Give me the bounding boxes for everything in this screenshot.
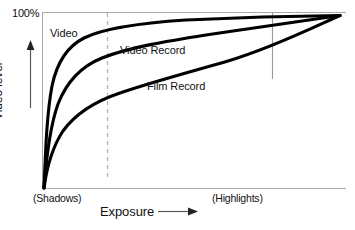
y-axis-title: Video level — [0, 63, 4, 120]
curve-label-video: Video — [50, 28, 77, 39]
x-axis-tick-highlights: (Highlights) — [212, 193, 263, 204]
chart-figure: 100% Video level Exposure (Shadows) (Hig… — [0, 0, 355, 230]
curve-label-video-record: Video Record — [120, 45, 185, 56]
curve-film-record — [44, 16, 340, 189]
y-axis-arrow-icon — [27, 40, 35, 108]
y-axis-tick-100-percent: 100% — [12, 8, 39, 19]
curve-video-record — [44, 16, 340, 189]
x-axis-tick-shadows: (Shadows) — [33, 193, 81, 204]
curve-video — [44, 16, 340, 189]
x-axis-title: Exposure — [100, 205, 154, 218]
x-axis-arrow-icon — [158, 207, 198, 215]
curve-label-film-record: Film Record — [147, 81, 205, 92]
